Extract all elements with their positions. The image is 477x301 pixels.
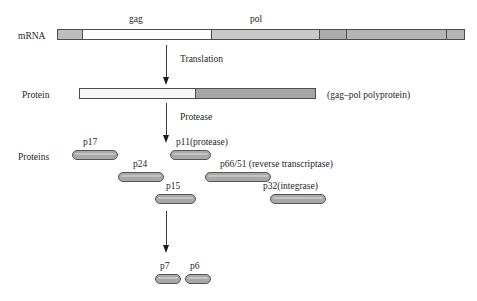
protein-segment-pol [196,89,315,98]
product-pill-p66-51 [205,172,271,182]
translation-arrow-line [166,45,167,78]
product-pill-p24 [118,172,164,182]
mrna-bar [57,29,465,40]
product-pill-p32 [270,194,326,204]
product-label-p66-51: p66/51 (reverse transcriptase) [220,160,333,170]
protein-annotation: (gag–pol polyprotein) [327,91,410,101]
mrna-segment-pol-a [212,30,319,39]
protease-arrow-head [163,135,169,143]
product-pill-p17 [72,150,118,160]
mrna-segment-3utr [447,30,464,39]
row-label-proteins: Proteins [18,153,49,163]
arrow-label-protease: Protease [180,113,212,123]
product-label-p11: p11(protease) [176,138,228,148]
protein-bar [79,88,316,99]
product-pill-p7 [155,274,181,284]
cleavage-arrow-line [166,211,167,246]
product-label-p17: p17 [83,138,97,148]
product-pill-p11 [170,150,211,160]
product-pill-p15 [155,194,196,204]
product-label-p24: p24 [133,160,147,170]
gene-label-gag: gag [129,15,143,25]
mrna-segment-gag [83,30,211,39]
mrna-segment-5utr [58,30,82,39]
gene-label-pol: pol [250,15,262,25]
protein-segment-gag [80,89,195,98]
protease-arrow-line [166,103,167,136]
polyprotein-processing-diagram: mRNA gag pol Translation Protein (gag–po… [0,0,477,301]
row-label-protein: Protein [22,91,49,101]
translation-arrow-head [163,77,169,85]
product-label-p32: p32(integrase) [263,182,318,192]
row-label-mrna: mRNA [18,32,45,42]
mrna-segment-pol-b [320,30,346,39]
product-label-p15: p15 [166,182,180,192]
product-pill-p6 [185,274,211,284]
cleavage-arrow-head [163,245,169,253]
arrow-label-translation: Translation [180,55,223,65]
product-label-p6: p6 [190,262,200,272]
product-label-p7: p7 [160,262,170,272]
mrna-segment-pol-c [347,30,446,39]
